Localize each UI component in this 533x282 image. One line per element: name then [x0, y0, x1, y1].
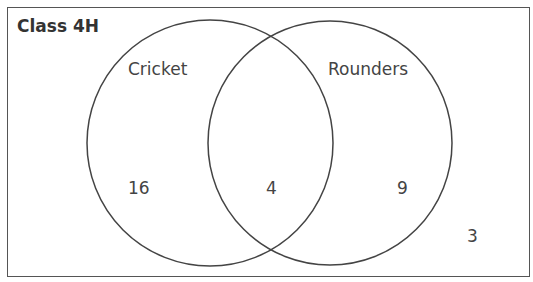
rounders-circle	[208, 21, 452, 265]
rounders-only-count: 9	[397, 180, 408, 197]
intersection-count: 4	[266, 180, 277, 197]
outside-count: 3	[467, 228, 478, 245]
rounders-label: Rounders	[328, 61, 408, 78]
cricket-circle	[87, 20, 333, 266]
diagram-title: Class 4H	[17, 16, 99, 36]
cricket-only-count: 16	[128, 180, 150, 197]
venn-diagram	[0, 0, 533, 282]
cricket-label: Cricket	[128, 61, 187, 78]
